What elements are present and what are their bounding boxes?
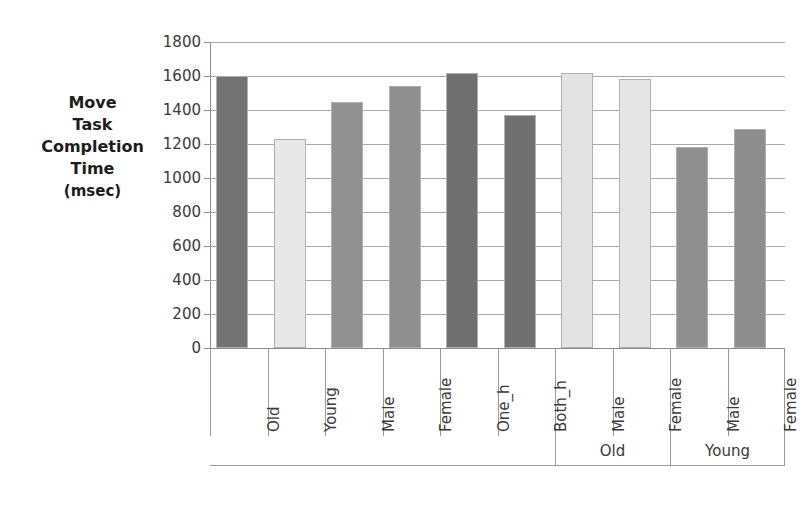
y-tick-label: 1600 bbox=[163, 67, 201, 85]
bar bbox=[389, 86, 421, 348]
category-label: Female bbox=[749, 352, 809, 436]
y-tick-label: 0 bbox=[191, 339, 201, 357]
y-tick-mark bbox=[204, 280, 210, 281]
y-tick-label: 600 bbox=[172, 237, 201, 255]
bar bbox=[216, 76, 248, 348]
y-axis-title-line-1: Move bbox=[30, 92, 155, 114]
gridline bbox=[210, 42, 785, 43]
plot-area: 020040060080010001200140016001800 bbox=[210, 42, 785, 348]
bar-chart: Move Task Completion Time (msec) 0200400… bbox=[0, 0, 809, 505]
bar bbox=[331, 102, 363, 349]
group-label: Young bbox=[670, 436, 785, 466]
bar bbox=[561, 73, 593, 348]
y-tick-mark bbox=[204, 212, 210, 213]
group-label: Old bbox=[555, 436, 670, 466]
bar bbox=[676, 147, 708, 348]
y-axis-title: Move Task Completion Time (msec) bbox=[30, 92, 155, 202]
bar bbox=[274, 139, 306, 348]
gridline bbox=[210, 110, 785, 111]
y-tick-mark bbox=[204, 42, 210, 43]
group-band: OldYoung bbox=[210, 436, 785, 466]
y-tick-mark bbox=[204, 76, 210, 77]
gridline bbox=[210, 76, 785, 77]
y-axis-title-unit: (msec) bbox=[30, 180, 155, 202]
y-tick-mark bbox=[204, 246, 210, 247]
y-axis-title-line-3: Completion bbox=[30, 136, 155, 158]
y-tick-label: 200 bbox=[172, 305, 201, 323]
y-axis-title-line-2: Task bbox=[30, 114, 155, 136]
category-left-edge bbox=[210, 348, 211, 436]
y-axis-title-line-4: Time bbox=[30, 158, 155, 180]
y-tick-mark bbox=[204, 144, 210, 145]
y-tick-label: 1200 bbox=[163, 135, 201, 153]
y-axis-line bbox=[210, 42, 211, 348]
y-tick-label: 400 bbox=[172, 271, 201, 289]
y-tick-mark bbox=[204, 314, 210, 315]
bar bbox=[446, 73, 478, 348]
bar bbox=[504, 115, 536, 348]
bar bbox=[619, 79, 651, 348]
y-tick-mark bbox=[204, 178, 210, 179]
bar bbox=[734, 129, 766, 348]
y-tick-label: 1400 bbox=[163, 101, 201, 119]
y-tick-label: 1000 bbox=[163, 169, 201, 187]
y-tick-label: 1800 bbox=[163, 33, 201, 51]
y-tick-label: 800 bbox=[172, 203, 201, 221]
y-tick-mark bbox=[204, 110, 210, 111]
